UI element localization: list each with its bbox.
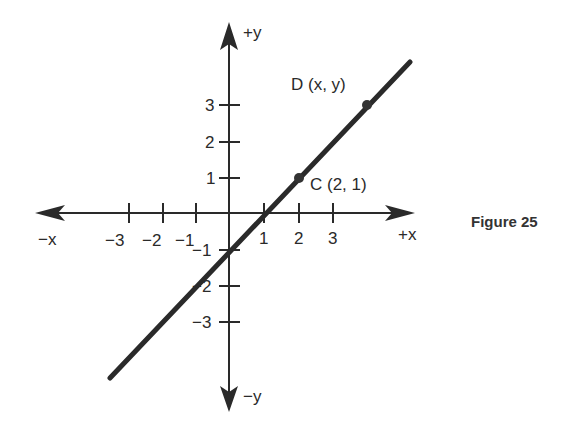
y-tick-label: −2: [192, 278, 211, 295]
x-tick-label: −3: [105, 232, 124, 249]
x-positive-label: +x: [398, 226, 416, 243]
y-tick-label: 2: [205, 134, 214, 151]
point-c-label: C (2, 1): [310, 176, 367, 193]
y-axis: [219, 22, 240, 412]
x-tick-label: 1: [259, 230, 268, 247]
y-tick-label: −1: [192, 242, 211, 259]
y-tick-label: 1: [206, 170, 215, 187]
point-c: [294, 173, 304, 183]
y-tick-label: −3: [192, 314, 211, 331]
x-tick-label: 2: [294, 230, 303, 247]
point-d-label: D (x, y): [291, 76, 346, 93]
x-tick-label: −2: [142, 232, 161, 249]
y-negative-label: −y: [243, 388, 261, 405]
x-axis: [35, 203, 415, 223]
point-d: [362, 100, 372, 110]
x-tick-label: 3: [328, 230, 337, 247]
y-tick-label: 3: [205, 97, 214, 114]
x-negative-label: −x: [38, 231, 56, 248]
figure-caption: Figure 25: [471, 213, 538, 230]
y-positive-label: +y: [243, 24, 261, 41]
